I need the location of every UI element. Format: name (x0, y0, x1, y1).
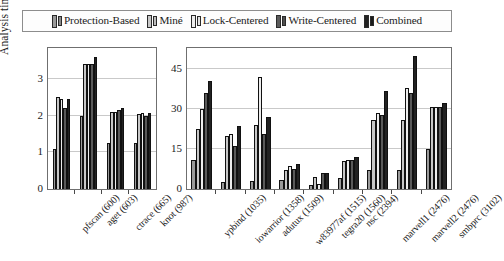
bar-group (426, 48, 446, 189)
right-plot-area (187, 48, 451, 189)
bar-group (250, 48, 270, 189)
legend-item-2: Lock-Centered (187, 15, 273, 28)
bar (208, 81, 212, 189)
x-tick-mark (245, 190, 246, 194)
y-tick-label: 3 (38, 72, 44, 84)
bar (354, 157, 358, 189)
y-tick-label: 30 (171, 102, 182, 114)
legend-label: Miné (159, 15, 182, 26)
legend-swatch-bar-icon (58, 16, 62, 26)
left-chart-panel (47, 47, 157, 190)
y-tick-label: 15 (171, 142, 182, 154)
legend-swatch-4 (364, 15, 374, 28)
right-y-axis: 0153045 (160, 47, 182, 188)
left-plot-area (48, 48, 156, 189)
bar (413, 56, 417, 189)
x-tick-mark (274, 190, 275, 194)
legend-swatch-bar-icon (191, 15, 196, 28)
bar-group (53, 48, 70, 189)
bar-group (367, 48, 387, 189)
x-tick-mark (128, 190, 129, 194)
bar-groups (48, 48, 156, 189)
legend-label: Protection-Based (64, 15, 139, 26)
legend-label: Write-Centered (288, 15, 356, 26)
bar (148, 113, 151, 189)
left-y-axis: 0123 (21, 47, 43, 188)
x-tick-mark (333, 190, 334, 194)
bar-group (338, 48, 358, 189)
bar (296, 164, 300, 189)
legend-item-4: Combined (360, 15, 426, 28)
x-tick-mark (215, 190, 216, 194)
y-tick-label: 1 (38, 145, 44, 157)
bar-group (279, 48, 299, 189)
legend-swatch-bar-icon (147, 15, 152, 28)
bar-group (309, 48, 329, 189)
bar-group (134, 48, 151, 189)
legend-item-3: Write-Centered (272, 15, 360, 28)
y-tick-label: 45 (171, 62, 182, 74)
y-axis-title: Analysis time [s] (0, 0, 10, 55)
legend-swatch-bar-icon (276, 15, 281, 28)
y-tick-label: 0 (38, 182, 44, 194)
legend-swatch-bar-icon (52, 15, 57, 28)
legend-swatch-bar-icon (197, 16, 201, 26)
x-tick-mark (421, 190, 422, 194)
bar (384, 91, 388, 189)
bar (237, 126, 241, 189)
bar-group (80, 48, 97, 189)
y-tick-label: 2 (38, 109, 44, 121)
legend-swatch-bar-icon (370, 16, 374, 26)
legend-item-1: Miné (143, 15, 186, 28)
legend-swatch-0 (52, 15, 62, 28)
legend-swatch-1 (147, 15, 157, 28)
bar-group (221, 48, 241, 189)
x-tick-mark (101, 190, 102, 194)
x-tick-mark (74, 190, 75, 194)
bar (121, 108, 124, 189)
x-tick-mark (391, 190, 392, 194)
chart-legend: Protection-BasedMinéLock-CenteredWrite-C… (22, 10, 452, 32)
bar (325, 173, 329, 189)
legend-label: Combined (376, 15, 422, 26)
y-tick-label: 0 (177, 182, 183, 194)
bar (442, 103, 446, 189)
legend-swatch-bar-icon (153, 16, 157, 26)
legend-swatch-3 (276, 15, 286, 28)
legend-swatch-bar-icon (282, 16, 286, 26)
bar (94, 57, 97, 189)
bar-groups (187, 48, 451, 189)
legend-label: Lock-Centered (203, 15, 269, 26)
right-x-axis-labels: ypbind (1035)iowarrior (1358)adutux (150… (186, 190, 450, 258)
left-x-axis-labels: pfscan (600)aget (603)ctrace (665)knot (… (47, 190, 155, 258)
bar (67, 99, 70, 189)
legend-swatch-bar-icon (364, 15, 369, 28)
right-chart-panel (186, 47, 452, 190)
bar-group (397, 48, 417, 189)
x-tick-mark (303, 190, 304, 194)
bar-group (191, 48, 211, 189)
bar-group (107, 48, 124, 189)
legend-swatch-2 (191, 15, 201, 28)
x-tick-mark (362, 190, 363, 194)
legend-item-0: Protection-Based (48, 15, 143, 28)
bar (266, 117, 270, 189)
